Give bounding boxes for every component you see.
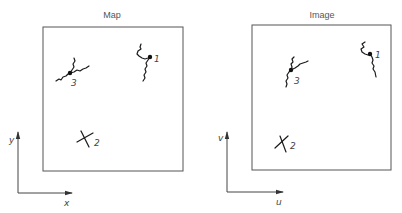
- map-point-1-label: 1: [154, 54, 160, 64]
- image-point-1-label: 1: [375, 50, 381, 60]
- image-feature-2: 2: [275, 136, 296, 152]
- map-feature-1: 1: [137, 44, 160, 81]
- map-point-1-dot: [148, 55, 152, 59]
- map-feature-3: 3: [56, 58, 89, 88]
- map-title: Map: [103, 10, 121, 20]
- map-feature-2: 2: [77, 131, 100, 148]
- image-v-axis-label: v: [218, 133, 224, 143]
- map-frame: [43, 27, 183, 171]
- image-point-1-dot: [368, 52, 372, 56]
- image-point-3-dot: [289, 68, 293, 72]
- map-point-2-label: 2: [94, 138, 100, 148]
- map-x-axis-label: x: [63, 198, 70, 208]
- image-point-2-label: 2: [290, 141, 296, 151]
- map-axes: y x: [8, 132, 72, 208]
- image-frame: [252, 25, 391, 170]
- map-point-3-label: 3: [71, 78, 77, 88]
- map-point-3-dot: [68, 71, 72, 75]
- image-title: Image: [309, 10, 334, 20]
- image-feature-1: 1: [361, 42, 381, 77]
- image-feature-3: 3: [286, 57, 308, 87]
- map-image-correspondence-diagram: Map 3 1 2 y x: [0, 0, 402, 213]
- map-panel: Map 3 1 2 y x: [8, 10, 183, 208]
- image-point-3-label: 3: [294, 76, 300, 86]
- image-panel: Image 3 1 2 v u: [218, 10, 391, 207]
- image-u-axis-label: u: [276, 197, 282, 207]
- map-y-axis-label: y: [8, 135, 15, 145]
